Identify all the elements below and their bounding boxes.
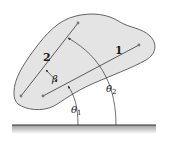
theta2-label: θ2	[106, 83, 117, 96]
line-1-label: 1	[115, 44, 123, 57]
line-2-label: 2	[43, 51, 51, 64]
ground-shading	[12, 125, 156, 134]
line-2-end-point	[77, 22, 80, 25]
beta-label: β	[51, 73, 58, 84]
rigid-body-diagram: 1 2 β θ1 θ2	[0, 0, 171, 142]
rigid-body-shape	[14, 14, 155, 110]
theta1-subscript: 1	[77, 109, 81, 117]
line-1-end-point	[138, 44, 141, 47]
line-1-start-point	[42, 95, 45, 98]
line-2-start-point	[20, 95, 23, 98]
theta2-subscript: 2	[112, 88, 116, 96]
theta1-label: θ1	[71, 104, 82, 117]
